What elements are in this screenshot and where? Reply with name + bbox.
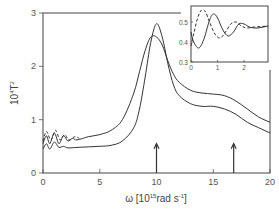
y-tick-label: 0.3 — [179, 59, 188, 66]
x-tick-label: 20 — [265, 177, 275, 187]
y-tick-label: 3 — [31, 8, 36, 18]
inset-plot: 0120.30.40.5 — [179, 2, 277, 71]
x-tick-label: 10 — [151, 177, 161, 187]
y-tick-label: 1 — [31, 115, 36, 125]
x-tick-label: 15 — [208, 177, 218, 187]
x-tick-label: 1 — [216, 64, 220, 71]
y-tick-label: 0 — [31, 168, 36, 178]
y-axis-title: 104T2 — [9, 80, 20, 105]
y-tick-label: 0.5 — [179, 19, 188, 26]
x-tick-label: 0 — [40, 177, 45, 187]
y-tick-label: 0.4 — [179, 39, 188, 46]
x-tick-label: 2 — [242, 64, 246, 71]
x-axis-title: ω [1015rad s-1] — [125, 193, 187, 204]
chart-canvas: 051015200123 0120.30.40.5 104T2 ω [1015r… — [0, 0, 279, 210]
x-tick-label: 5 — [97, 177, 102, 187]
y-tick-label: 2 — [31, 61, 36, 71]
x-tick-label: 0 — [189, 64, 193, 71]
